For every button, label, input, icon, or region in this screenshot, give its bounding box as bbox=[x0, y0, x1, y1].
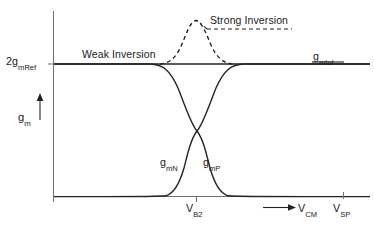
y-axis-title-subscript: m bbox=[24, 119, 31, 128]
annotation-gm-total: gmtot bbox=[313, 51, 334, 62]
annotation-gm-n: gmN bbox=[160, 157, 178, 168]
annotation-gm-p: gmP bbox=[203, 157, 220, 168]
x-tick-label-vsp: VSP bbox=[333, 203, 350, 214]
y-axis-value-label-subscript: mRef bbox=[18, 63, 36, 72]
x-tick-label-vb2: VB2 bbox=[186, 203, 202, 214]
transconductance-plot bbox=[0, 0, 374, 228]
gm-p-curve bbox=[54, 64, 370, 197]
x-tick-label-vb2-subscript: B2 bbox=[193, 210, 202, 219]
x-axis-direction-arrow-head bbox=[288, 204, 296, 211]
figure-container: 2gmRef gm Weak Inversion Strong Inversio… bbox=[0, 0, 374, 228]
annotation-weak-inversion: Weak Inversion bbox=[82, 49, 156, 60]
y-axis-value-label-2gmref: 2gmRef bbox=[6, 56, 36, 67]
y-axis-direction-arrow-head bbox=[37, 93, 44, 101]
y-axis-value-label-text: 2g bbox=[6, 55, 18, 67]
annotation-gm-n-subscript: mN bbox=[166, 164, 178, 173]
x-tick-label-vsp-subscript: SP bbox=[340, 210, 350, 219]
gm-total-strong-inversion-curve bbox=[160, 21, 233, 65]
x-axis-title-subscript: CM bbox=[305, 210, 317, 219]
annotation-gm-p-subscript: mP bbox=[209, 164, 220, 173]
y-axis-title: gm bbox=[18, 112, 31, 123]
annotation-strong-inversion: Strong Inversion bbox=[210, 15, 288, 26]
gm-n-curve bbox=[54, 64, 370, 197]
annotation-gm-total-subscript: mtot bbox=[319, 58, 334, 67]
strong-inversion-leader-hook bbox=[200, 23, 207, 29]
x-axis-title: VCM bbox=[298, 203, 317, 214]
